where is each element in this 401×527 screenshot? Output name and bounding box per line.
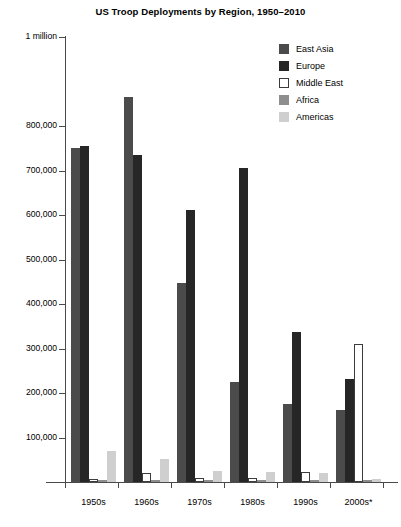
bar-americas-1950s xyxy=(107,451,116,482)
x-axis-tick xyxy=(383,482,384,488)
legend-item-east-asia[interactable]: East Asia xyxy=(279,40,343,57)
bar-east-asia-2000s xyxy=(336,410,345,482)
legend-swatch-icon xyxy=(279,44,289,54)
bar-group xyxy=(177,37,222,482)
bar-africa-2000s xyxy=(363,480,372,482)
y-axis-tick xyxy=(59,438,66,439)
y-axis-tick-label: 500,000 xyxy=(5,254,57,264)
bar-east-asia-1960s xyxy=(124,97,133,482)
bar-europe-1980s xyxy=(239,168,248,482)
y-axis-labels: 1 million800,000700,000600,000500,000400… xyxy=(0,0,57,527)
bar-middle-east-1990s xyxy=(301,472,310,482)
legend-swatch-icon xyxy=(279,61,289,71)
bar-americas-1980s xyxy=(266,472,275,482)
legend-label: Middle East xyxy=(296,78,343,88)
y-axis-tick-label: 100,000 xyxy=(5,432,57,442)
bar-americas-1970s xyxy=(213,471,222,482)
legend-item-africa[interactable]: Africa xyxy=(279,91,343,108)
y-axis-tick-label: 200,000 xyxy=(5,387,57,397)
x-axis-tick xyxy=(330,482,331,488)
legend-swatch-icon xyxy=(279,112,289,122)
plot-area xyxy=(66,37,396,482)
legend-label: Europe xyxy=(296,61,325,71)
bar-americas-1990s xyxy=(319,473,328,482)
legend-label: East Asia xyxy=(296,44,334,54)
x-axis-tick xyxy=(171,482,172,488)
chart-legend: East AsiaEuropeMiddle EastAfricaAmericas xyxy=(279,40,343,125)
legend-item-middle-east[interactable]: Middle East xyxy=(279,74,343,91)
bar-europe-2000s xyxy=(345,379,354,482)
bar-africa-1980s xyxy=(257,480,266,482)
bar-africa-1960s xyxy=(151,480,160,482)
x-axis-tick xyxy=(224,482,225,488)
y-axis-tick-label: 1 million xyxy=(5,31,57,41)
x-axis-label-1980s: 1980s xyxy=(222,497,283,507)
bar-east-asia-1970s xyxy=(177,283,186,482)
bar-east-asia-1990s xyxy=(283,404,292,482)
x-axis-label-1950s: 1950s xyxy=(63,497,124,507)
bar-africa-1970s xyxy=(204,480,213,482)
y-axis-tick xyxy=(59,304,66,305)
legend-label: Africa xyxy=(296,95,319,105)
y-axis-tick-label: 600,000 xyxy=(5,209,57,219)
x-axis-tick xyxy=(118,482,119,488)
bar-middle-east-2000s xyxy=(354,344,363,482)
bar-europe-1950s xyxy=(80,146,89,482)
legend-item-europe[interactable]: Europe xyxy=(279,57,343,74)
chart-title: US Troop Deployments by Region, 1950–201… xyxy=(0,6,401,17)
x-axis-label-1990s: 1990s xyxy=(275,497,336,507)
x-axis-label-1960s: 1960s xyxy=(116,497,177,507)
bar-africa-1990s xyxy=(310,480,319,482)
legend-swatch-icon xyxy=(279,95,289,105)
bar-group xyxy=(230,37,275,482)
y-axis-tick-label: 300,000 xyxy=(5,343,57,353)
legend-swatch-icon xyxy=(279,78,289,88)
legend-label: Americas xyxy=(296,112,334,122)
y-axis-tick xyxy=(59,37,66,38)
bar-europe-1990s xyxy=(292,332,301,482)
x-axis-tick xyxy=(277,482,278,488)
y-axis-tick xyxy=(59,349,66,350)
y-axis-tick xyxy=(59,260,66,261)
bar-middle-east-1950s xyxy=(89,479,98,482)
bar-east-asia-1950s xyxy=(71,148,80,482)
x-axis-tick xyxy=(65,482,66,488)
y-axis-tick xyxy=(59,215,66,216)
bar-east-asia-1980s xyxy=(230,382,239,482)
bar-chart: US Troop Deployments by Region, 1950–201… xyxy=(0,0,401,527)
bar-americas-2000s xyxy=(372,479,381,482)
bar-middle-east-1960s xyxy=(142,473,151,482)
bar-europe-1960s xyxy=(133,155,142,482)
y-axis-tick xyxy=(59,126,66,127)
bar-americas-1960s xyxy=(160,459,169,482)
x-axis-line xyxy=(46,482,398,483)
legend-item-americas[interactable]: Americas xyxy=(279,108,343,125)
y-axis-tick-label: 800,000 xyxy=(5,120,57,130)
bar-middle-east-1980s xyxy=(248,478,257,482)
bar-africa-1950s xyxy=(98,480,107,482)
bar-group xyxy=(124,37,169,482)
bar-group xyxy=(71,37,116,482)
bar-middle-east-1970s xyxy=(195,478,204,482)
x-axis-label-2000s: 2000s* xyxy=(328,497,389,507)
y-axis-tick xyxy=(59,171,66,172)
y-axis-tick-label: 700,000 xyxy=(5,165,57,175)
y-axis-tick-label: 400,000 xyxy=(5,298,57,308)
bar-europe-1970s xyxy=(186,210,195,482)
x-axis-label-1970s: 1970s xyxy=(169,497,230,507)
y-axis-tick xyxy=(59,393,66,394)
